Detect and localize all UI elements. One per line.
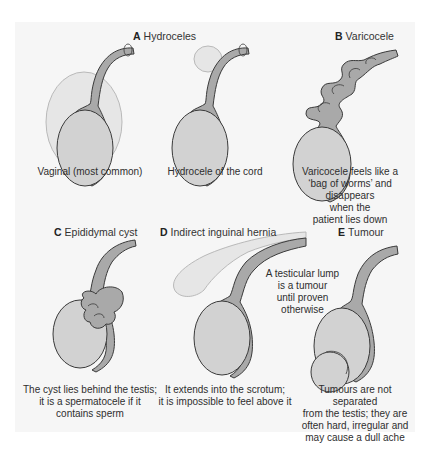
- panel-e-letter: E: [338, 226, 345, 238]
- caption-tumour: Tumours are not separated from the testi…: [295, 384, 415, 444]
- caption-line: it is impossible to feel above it: [155, 396, 295, 408]
- epididymal-cyst-illustration: [53, 240, 136, 372]
- hydrocele-vaginal-illustration: [46, 44, 134, 186]
- panel-a-letter: A: [133, 30, 141, 42]
- caption-vaginal-hydrocele: Vaginal (most common): [30, 166, 150, 178]
- caption-line: often hard, irregular and: [295, 420, 415, 432]
- caption-line: patient lies down: [285, 214, 415, 226]
- panel-a-title-text: Hydroceles: [144, 30, 197, 42]
- panel-b-letter: B: [335, 30, 343, 42]
- caption-line: It extends into the scrotum;: [155, 384, 295, 396]
- tumour-annotation: A testicular lump is a tumour until prov…: [265, 268, 340, 316]
- caption-text: Vaginal (most common): [38, 166, 143, 177]
- caption-line: may cause a dull ache: [295, 432, 415, 444]
- panel-e-title: ETumour: [338, 226, 384, 238]
- panel-c-title: CEpididymal cyst: [54, 226, 138, 238]
- caption-line: when the: [285, 202, 415, 214]
- caption-line: from the testis; they are: [295, 408, 415, 420]
- panel-d-title-text: Indirect inguinal hernia: [171, 226, 277, 238]
- panel-c-title-text: Epididymal cyst: [65, 226, 138, 238]
- annotation-line: until proven: [265, 292, 340, 304]
- caption-line: The cyst lies behind the testis;: [20, 384, 160, 396]
- caption-epididymal-cyst: The cyst lies behind the testis; it is a…: [20, 384, 160, 420]
- panel-e-title-text: Tumour: [348, 226, 384, 238]
- caption-line: ‘bag of worms’ and disappears: [285, 178, 415, 202]
- caption-varicocele: Varicocele feels like a ‘bag of worms’ a…: [285, 166, 415, 226]
- caption-inguinal-hernia: It extends into the scrotum; it is impos…: [155, 384, 295, 408]
- annotation-line: A testicular lump: [265, 268, 340, 280]
- caption-line: Tumours are not separated: [295, 384, 415, 408]
- panel-d-title: DIndirect inguinal hernia: [160, 226, 276, 238]
- caption-line: contains sperm: [20, 408, 160, 420]
- annotation-line: otherwise: [265, 304, 340, 316]
- panel-a-title: AHydroceles: [133, 30, 196, 42]
- panel-d-letter: D: [160, 226, 168, 238]
- annotation-line: is a tumour: [265, 280, 340, 292]
- panel-b-title-text: Varicocele: [346, 30, 394, 42]
- caption-line: it is a spermatocele if it: [20, 396, 160, 408]
- caption-hydrocele-cord: Hydrocele of the cord: [160, 166, 270, 178]
- panel-b-title: BVaricocele: [335, 30, 394, 42]
- panel-c-letter: C: [54, 226, 62, 238]
- caption-text: Hydrocele of the cord: [167, 166, 262, 177]
- caption-line: Varicocele feels like a: [285, 166, 415, 178]
- hydrocele-cord-illustration: [172, 44, 249, 186]
